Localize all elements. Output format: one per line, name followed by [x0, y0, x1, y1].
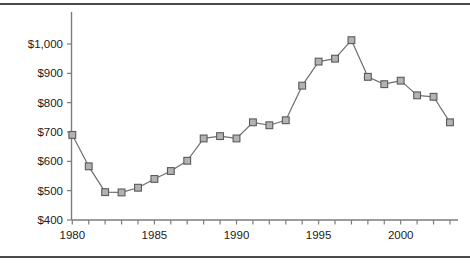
x-tick-label: 1995 — [306, 229, 332, 241]
bottom-divider-rule — [0, 256, 470, 258]
chart-figure: $400$500$600$700$800$900$1,000 198019851… — [0, 0, 470, 273]
x-tick-label: 1990 — [224, 229, 250, 241]
y-tick-label: $900 — [37, 67, 63, 79]
data-point-marker — [430, 93, 437, 100]
data-point-marker — [266, 122, 273, 129]
x-tick-label: 2000 — [388, 229, 414, 241]
y-tick-label: $400 — [37, 214, 63, 226]
data-point-marker — [167, 168, 174, 175]
data-point-marker — [348, 37, 355, 44]
data-point-marker — [135, 184, 142, 191]
x-tick-label: 1985 — [142, 229, 168, 241]
y-tick-label: $700 — [37, 126, 63, 138]
data-point-marker — [217, 133, 224, 140]
data-point-marker — [151, 176, 158, 183]
data-point-marker — [282, 117, 289, 124]
data-point-marker — [381, 81, 388, 88]
data-point-marker — [414, 92, 421, 99]
y-tick-label: $800 — [37, 97, 63, 109]
data-point-marker — [250, 119, 257, 126]
data-point-marker — [364, 73, 371, 80]
series-line — [72, 40, 450, 192]
data-point-marker — [85, 163, 92, 170]
data-point-marker — [233, 135, 240, 142]
data-point-marker — [332, 55, 339, 62]
y-axis: $400$500$600$700$800$900$1,000 — [28, 12, 72, 226]
data-point-marker — [184, 157, 191, 164]
data-point-marker — [118, 189, 125, 196]
y-tick-label: $1,000 — [28, 38, 63, 50]
x-axis: 19801985199019952000 — [60, 220, 458, 241]
data-series — [72, 40, 450, 192]
y-tick-label: $600 — [37, 155, 63, 167]
data-markers — [69, 37, 453, 196]
data-point-marker — [200, 135, 207, 142]
data-point-marker — [299, 82, 306, 89]
data-point-marker — [397, 77, 404, 84]
data-point-marker — [447, 119, 454, 126]
data-point-marker — [315, 58, 322, 65]
line-chart: $400$500$600$700$800$900$1,000 198019851… — [0, 0, 470, 273]
y-tick-label: $500 — [37, 185, 63, 197]
x-tick-label: 1980 — [60, 229, 86, 241]
data-point-marker — [102, 189, 109, 196]
data-point-marker — [69, 132, 76, 139]
